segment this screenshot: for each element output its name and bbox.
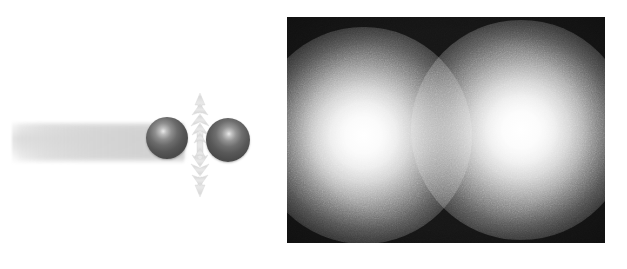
sphere-left — [146, 117, 188, 159]
figure-root — [0, 0, 627, 269]
camera-image-panel — [287, 17, 605, 243]
sphere-right — [206, 118, 250, 162]
schematic-panel — [0, 0, 287, 269]
